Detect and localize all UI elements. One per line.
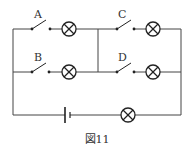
figure-caption: 図11 xyxy=(85,133,110,146)
switch-d[interactable]: D xyxy=(116,51,136,73)
lamp-c-icon xyxy=(146,22,160,36)
lamp-main-icon xyxy=(121,108,135,122)
switch-b-label: B xyxy=(34,51,42,64)
lamp-b-icon xyxy=(62,65,76,79)
switch-d-label: D xyxy=(118,51,127,64)
circuit-diagram: A B C D xyxy=(0,0,193,147)
switch-c[interactable]: C xyxy=(116,8,136,30)
switch-a-label: A xyxy=(33,8,43,21)
switch-c-label: C xyxy=(118,8,126,21)
switch-a[interactable]: A xyxy=(31,8,52,30)
switch-b[interactable]: B xyxy=(31,51,51,73)
lamp-a-icon xyxy=(62,22,76,36)
battery-icon xyxy=(65,107,70,123)
lamp-d-icon xyxy=(146,65,160,79)
